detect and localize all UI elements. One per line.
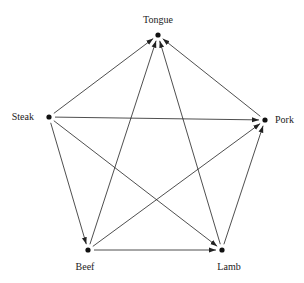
edge-beef-to-tongue (90, 41, 156, 245)
node-pork (262, 117, 267, 122)
edge-lamb-to-pork (224, 126, 263, 245)
edge-lamb-to-tongue (160, 41, 221, 244)
edge-steak-to-lamb (54, 121, 217, 247)
node-label-tongue: Tongue (143, 14, 173, 25)
node-lamb (219, 247, 224, 252)
node-label-pork: Pork (275, 114, 294, 125)
edges-group (51, 39, 263, 250)
nodes-group: TongueSteakPorkBeefLamb (12, 14, 294, 272)
node-label-beef: Beef (76, 261, 96, 272)
node-tongue (155, 32, 160, 37)
node-label-steak: Steak (12, 111, 34, 122)
edge-pork-to-tongue (163, 39, 261, 117)
edge-beef-to-pork (93, 124, 260, 247)
edge-steak-to-beef (51, 123, 87, 244)
preference-graph: TongueSteakPorkBeefLamb (0, 0, 304, 283)
edge-steak-to-tongue (54, 39, 153, 114)
node-steak (46, 114, 51, 119)
node-beef (85, 247, 90, 252)
node-label-lamb: Lamb (217, 261, 240, 272)
edge-steak-to-pork (55, 117, 259, 120)
